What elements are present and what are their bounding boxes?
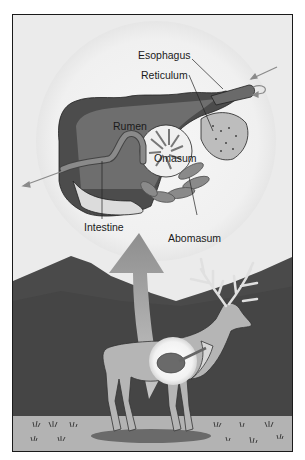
label-esophagus: Esophagus bbox=[138, 50, 191, 61]
label-rumen: Rumen bbox=[113, 121, 147, 132]
label-omasum: Omasum bbox=[154, 153, 197, 164]
reindeer-shadow bbox=[91, 429, 211, 443]
label-intestine: Intestine bbox=[84, 222, 124, 233]
label-abomasum: Abomasum bbox=[168, 233, 221, 244]
label-reticulum: Reticulum bbox=[141, 70, 188, 81]
diagram-frame: Esophagus Reticulum Rumen Omasum Intesti… bbox=[12, 14, 293, 452]
